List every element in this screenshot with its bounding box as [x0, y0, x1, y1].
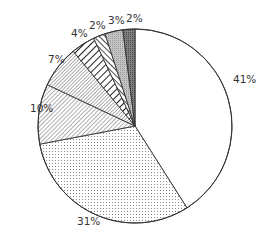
pie-slices [38, 29, 232, 223]
slice-label-3: 7% [48, 53, 65, 65]
slice-label-0: 41% [233, 73, 256, 85]
slice-label-7: 2% [126, 12, 143, 24]
slice-label-1: 31% [77, 215, 100, 227]
slice-label-6: 3% [108, 14, 125, 26]
pie-chart: 41%31%10%7%4%2%3%2% [0, 0, 268, 243]
slice-label-5: 2% [89, 19, 106, 31]
slice-label-2: 10% [30, 102, 53, 114]
slice-label-4: 4% [71, 27, 88, 39]
